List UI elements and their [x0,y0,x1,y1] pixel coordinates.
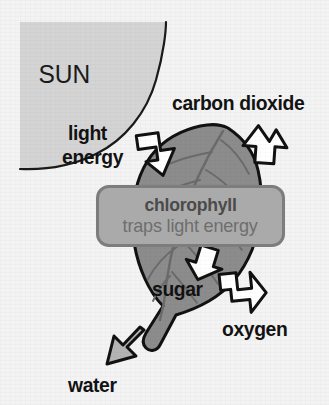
oxygen-label: oxygen [222,318,287,339]
water-arrow [107,327,144,364]
chlorophyll-subtitle: traps light energy [123,216,258,237]
sugar-label: sugar [152,278,203,299]
photosynthesis-diagram: SUN light energy carbon dioxide sugar ox… [0,0,329,405]
chlorophyll-title: chlorophyll [144,195,236,215]
light-label: light [68,122,107,143]
water-label: water [68,374,117,395]
chlorophyll-callout: chlorophyll traps light energy [96,185,285,247]
oxygen-arrow [219,270,268,315]
sun-label: SUN [39,60,91,89]
energy-label: energy [62,146,123,167]
carbon-dioxide-label: carbon dioxide [172,92,304,113]
